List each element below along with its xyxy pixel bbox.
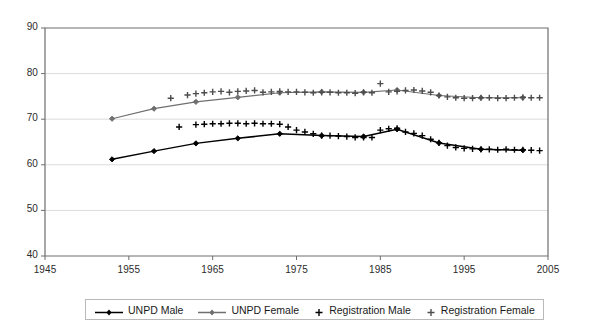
data-point (327, 89, 333, 95)
data-point (251, 120, 257, 126)
data-point (327, 133, 333, 139)
data-point (461, 95, 467, 101)
data-point (277, 131, 282, 136)
data-point (235, 136, 240, 141)
data-point (478, 146, 484, 152)
data-point (402, 87, 408, 93)
data-point (495, 95, 501, 101)
data-point (402, 129, 408, 135)
data-point (377, 81, 383, 87)
data-point (293, 89, 299, 95)
data-point (360, 89, 366, 95)
data-point (436, 92, 442, 98)
x-tick-label: 1945 (25, 264, 65, 275)
data-point (486, 146, 492, 152)
data-point (335, 90, 341, 96)
data-point (335, 133, 341, 139)
data-point (444, 94, 450, 100)
data-point (201, 121, 207, 127)
data-point (520, 147, 526, 153)
series-line (112, 90, 523, 119)
y-tick-label: 70 (14, 112, 38, 123)
series-unpd-female (109, 87, 525, 121)
legend-item-label: UNPD Male (128, 304, 183, 316)
data-point (251, 87, 257, 93)
data-point (260, 121, 266, 127)
legend-item-label: Registration Female (441, 304, 535, 316)
y-tick-label: 50 (14, 203, 38, 214)
data-point (528, 95, 534, 101)
data-point (193, 141, 198, 146)
data-point (193, 99, 198, 104)
data-point (226, 120, 232, 126)
legend-line-marker-icon (94, 304, 124, 315)
data-point (285, 124, 291, 130)
data-point (235, 88, 241, 94)
data-point (293, 127, 299, 133)
x-tick-label: 1985 (360, 264, 400, 275)
data-point (109, 116, 114, 121)
data-point (243, 88, 249, 94)
legend-item-label: UNPD Female (231, 304, 299, 316)
data-point (184, 92, 190, 98)
data-point (319, 89, 325, 95)
data-point (302, 89, 308, 95)
legend-item-label: Registration Male (329, 304, 411, 316)
y-tick-label: 60 (14, 158, 38, 169)
x-tick-label: 2005 (528, 264, 568, 275)
data-point (277, 121, 283, 127)
data-point (285, 89, 291, 95)
data-point (486, 95, 492, 101)
data-point (352, 90, 358, 96)
data-point (344, 133, 350, 139)
data-point (511, 147, 517, 153)
data-point (210, 121, 216, 127)
legend-item[interactable]: UNPD Male (94, 304, 183, 316)
data-point (469, 146, 475, 152)
chart-plot-area (0, 0, 602, 333)
legend-item[interactable]: Registration Female (425, 304, 535, 316)
data-point (176, 124, 182, 130)
data-point (520, 94, 526, 100)
data-point (537, 148, 543, 154)
data-point (344, 90, 350, 96)
data-point (193, 122, 199, 128)
data-point (151, 149, 156, 154)
data-point (495, 147, 501, 153)
data-point (503, 95, 509, 101)
data-point (235, 120, 241, 126)
chart-legend: UNPD MaleUNPD FemaleRegistration MaleReg… (85, 299, 544, 320)
legend-plus-marker-icon (425, 304, 437, 315)
legend-line-marker-icon (197, 304, 227, 315)
legend-item[interactable]: Registration Male (313, 304, 411, 316)
data-point (528, 147, 534, 153)
data-point (168, 95, 174, 101)
x-tick-label: 1955 (109, 264, 149, 275)
data-point (537, 95, 543, 101)
data-point (310, 90, 316, 96)
data-point (386, 89, 392, 95)
plot-frame (41, 28, 548, 260)
data-point (243, 121, 249, 127)
chart-container: 405060708090 194519551965197519851995200… (0, 0, 602, 333)
data-point (210, 89, 216, 95)
data-point (226, 89, 232, 95)
data-point (218, 88, 224, 94)
plot-frame-rect (45, 28, 548, 256)
data-point (453, 95, 459, 101)
series-line (112, 129, 523, 159)
data-point (503, 146, 509, 152)
data-point (109, 157, 114, 162)
y-tick-label: 90 (14, 21, 38, 32)
data-point (268, 121, 274, 127)
data-point (478, 95, 484, 101)
data-point (436, 140, 442, 146)
x-tick-label: 1975 (277, 264, 317, 275)
legend-item[interactable]: UNPD Female (197, 304, 299, 316)
data-point (319, 133, 325, 139)
data-point (151, 106, 156, 111)
data-point (218, 121, 224, 127)
data-point (235, 95, 240, 100)
x-tick-label: 1965 (193, 264, 233, 275)
data-point (201, 90, 207, 96)
